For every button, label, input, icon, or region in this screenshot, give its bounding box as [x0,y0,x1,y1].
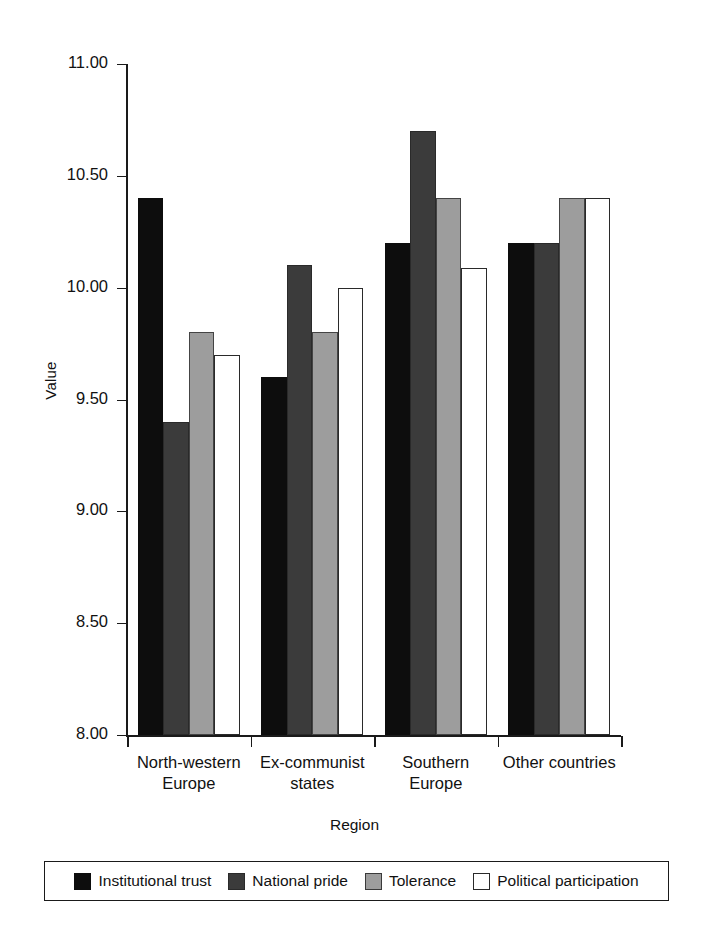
legend-swatch-icon [473,873,490,890]
y-axis-tick-mark [117,511,126,512]
x-axis-title: Region [0,816,709,834]
legend-label: National pride [252,872,348,890]
x-axis-tick-mark [251,736,253,747]
plot-area [127,64,621,735]
bar [534,243,560,735]
legend-label: Tolerance [389,872,456,890]
bar [312,332,338,735]
y-axis-tick-label: 10.50 [67,165,108,184]
x-axis-tick-mark [621,736,623,747]
legend-label: Political participation [497,872,638,890]
bar [436,198,462,735]
legend-item[interactable]: Political participation [473,872,638,890]
bar [410,131,436,735]
bar [163,422,189,735]
y-axis-tick-mark [117,623,126,624]
legend-swatch-icon [74,873,91,890]
bar [385,243,411,735]
legend-swatch-icon [228,873,245,890]
bar [559,198,585,735]
x-axis-tick-mark [127,736,129,747]
legend-item[interactable]: Tolerance [365,872,456,890]
y-axis-tick-label: 8.50 [76,612,108,631]
legend-item[interactable]: Institutional trust [74,872,211,890]
legend-item[interactable]: National pride [228,872,348,890]
y-axis-tick-label: 10.00 [67,277,108,296]
y-axis-tick-label: 8.00 [76,724,108,743]
bar [287,265,313,735]
y-axis-tick-mark [117,400,126,401]
bar [461,268,487,735]
x-axis-group-label: Other countries [483,752,637,773]
y-axis-tick-label: 9.00 [76,500,108,519]
bar [214,355,240,735]
legend: Institutional trustNational prideToleran… [44,861,669,901]
bar [138,198,164,735]
y-axis-tick-mark [117,176,126,177]
y-axis-tick-label: 11.00 [68,53,108,72]
bar [261,377,287,735]
bar [508,243,534,735]
bar-chart: Value 11.0010.5010.009.509.008.508.00 No… [0,0,709,927]
y-axis-title: Value [42,321,59,441]
y-axis-tick-mark [117,735,126,736]
legend-swatch-icon [365,873,382,890]
bar [585,198,611,735]
y-axis-tick-mark [117,64,126,65]
x-axis-tick-mark [374,736,376,747]
y-axis-tick-label: 9.50 [76,389,108,408]
x-axis-tick-mark [498,736,500,747]
y-axis-tick-mark [117,288,126,289]
bar [189,332,215,735]
legend-label: Institutional trust [98,872,211,890]
bar [338,288,364,735]
